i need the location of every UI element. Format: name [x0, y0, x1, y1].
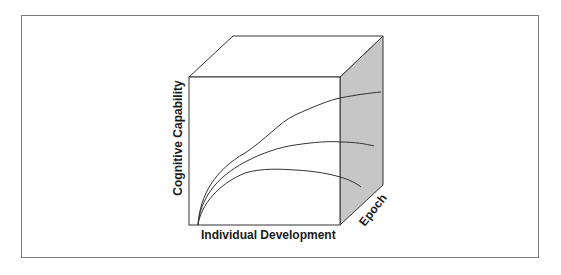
y-axis-label: Cognitive Capability [171, 80, 185, 195]
cube-front-face [189, 77, 340, 225]
x-axis-label: Individual Development [201, 228, 321, 242]
